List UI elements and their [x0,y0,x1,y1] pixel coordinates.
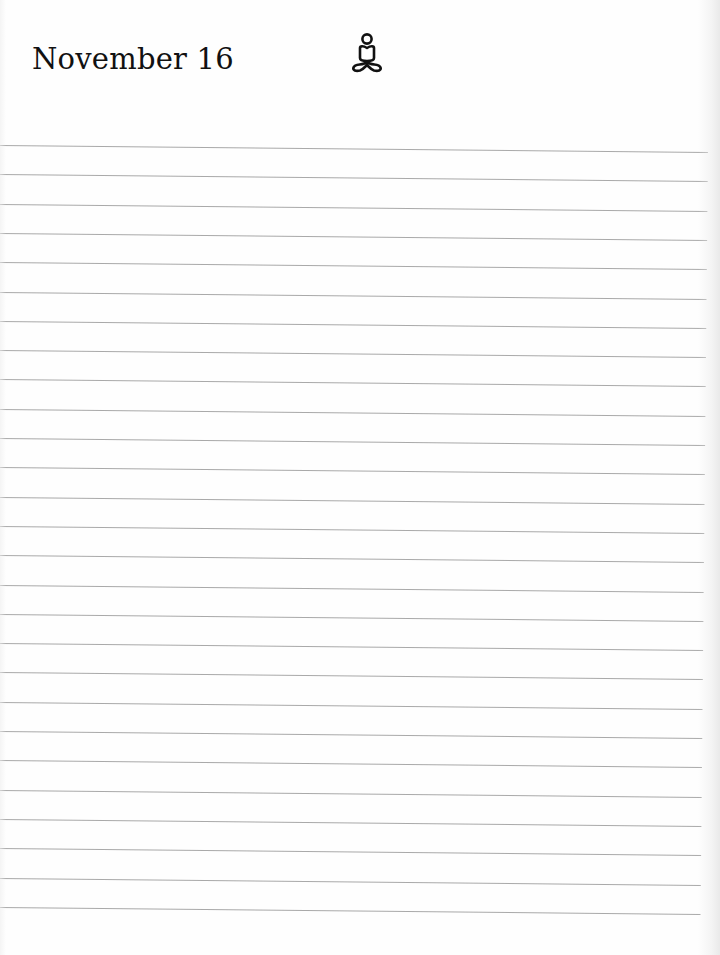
rule-line [0,379,706,387]
rule-line [0,409,705,417]
rule-line [0,790,702,798]
rule-line [0,643,703,651]
journal-page: November 16 [0,0,720,955]
rule-line [0,760,702,768]
rule-line [0,731,702,739]
rule-line [0,350,706,358]
rule-line [0,672,703,680]
rule-line [0,467,705,475]
rule-line [0,819,701,827]
rule-line [0,497,705,505]
rule-line [0,262,707,270]
rule-line [0,204,707,212]
rule-line [0,702,703,710]
rule-line [0,291,707,299]
rule-line [0,848,701,856]
rule-line [0,526,704,534]
rule-line [0,321,706,329]
rule-line [0,555,704,563]
rule-line [0,145,708,153]
rule-line [0,438,705,446]
rule-line [0,907,701,915]
rule-line [0,877,701,885]
rule-line [0,174,708,182]
rule-line [0,584,704,592]
rule-line [0,614,703,622]
rule-line [0,233,707,241]
ruled-lines [0,0,720,955]
